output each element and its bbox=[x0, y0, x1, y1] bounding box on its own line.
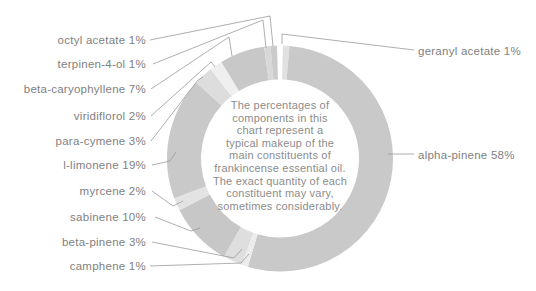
segment-arc-beta-pinene bbox=[232, 242, 247, 249]
segment-label-terpinen-4-ol: terpinen-4-ol 1% bbox=[58, 58, 146, 70]
segment-label-beta-pinene: beta-pinene 3% bbox=[62, 236, 146, 248]
center-note-line: typical makeup of the bbox=[195, 137, 365, 150]
segment-label-sabinene: sabinene 10% bbox=[70, 211, 146, 223]
segment-label-camphene: camphene 1% bbox=[70, 260, 146, 272]
segment-arc-terpinen-4-ol bbox=[266, 63, 272, 64]
donut-chart-figure: The percentages ofcomponents in thischar… bbox=[0, 0, 536, 291]
segment-arc-myrcene bbox=[190, 192, 194, 202]
center-note-line: frankincense essential oil. bbox=[195, 162, 365, 175]
segment-arc-para-cymene bbox=[209, 83, 221, 94]
segment-arc-camphene bbox=[247, 249, 252, 251]
center-note-line: components in this bbox=[195, 112, 365, 125]
center-note-line: sometimes considerably. bbox=[195, 200, 365, 213]
segment-label-viridiflorol: viridiflorol 2% bbox=[74, 110, 146, 122]
segment-label-beta-caryophyllene: beta-caryophyllene 7% bbox=[24, 83, 146, 95]
segment-label-l-limonene: l-limonene 19% bbox=[63, 159, 146, 171]
segment-label-myrcene: myrcene 2% bbox=[80, 185, 146, 197]
segment-label-para-cymene: para-cymene 3% bbox=[56, 135, 146, 147]
segment-label-geranyl-acetate: geranyl acetate 1% bbox=[418, 45, 521, 57]
donut-center-note: The percentages ofcomponents in thischar… bbox=[195, 99, 365, 212]
segment-label-alpha-pinene: alpha-pinene 58% bbox=[418, 149, 515, 161]
center-note-line: main constituents of bbox=[195, 149, 365, 162]
center-note-line: The exact quantity of each bbox=[195, 175, 365, 188]
segment-arc-viridiflorol bbox=[221, 76, 230, 82]
segment-label-octyl-acetate: octyl acetate 1% bbox=[58, 34, 146, 46]
leader-line-octyl-acetate bbox=[150, 16, 273, 46]
segment-arc-beta-caryophyllene bbox=[230, 63, 266, 76]
center-note-line: The percentages of bbox=[195, 99, 365, 112]
center-note-line: constituent may vary, bbox=[195, 187, 365, 200]
center-note-line: chart represent a bbox=[195, 124, 365, 137]
leader-line-geranyl-acetate bbox=[282, 34, 414, 50]
